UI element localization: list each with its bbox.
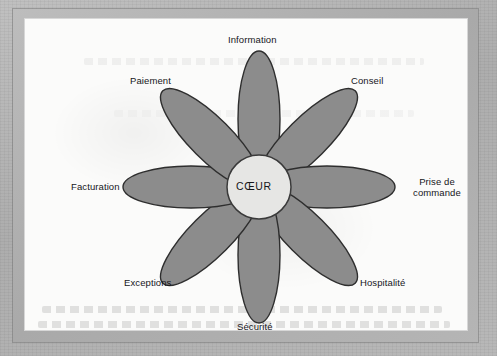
label-paiement: Paiement — [130, 75, 171, 86]
label-securite: Sécurité — [237, 321, 273, 331]
figure-frame: CŒUR Information Conseil Prise de comman… — [13, 9, 478, 342]
label-hospitalite: Hospitalité — [360, 277, 405, 288]
label-exceptions: Exceptions — [124, 277, 171, 288]
center-label: CŒUR — [236, 181, 272, 192]
label-prise-de-commande-line1: Prise de — [419, 176, 455, 187]
label-information: Information — [228, 34, 277, 45]
figure-canvas: CŒUR Information Conseil Prise de comman… — [24, 18, 468, 331]
label-prise-de-commande-line2: commande — [413, 187, 461, 198]
label-prise-de-commande: Prise de commande — [402, 176, 468, 198]
label-facturation: Facturation — [71, 181, 120, 192]
figure-screenshot: CŒUR Information Conseil Prise de comman… — [0, 0, 497, 356]
label-conseil: Conseil — [351, 75, 383, 86]
